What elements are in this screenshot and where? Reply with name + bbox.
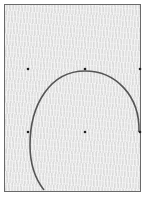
point-p1	[27, 68, 30, 71]
point-p4	[27, 131, 30, 134]
diagram-canvas	[0, 0, 149, 199]
point-p6	[139, 131, 142, 134]
point-p2	[84, 68, 87, 71]
control-points	[27, 68, 142, 134]
arc-curve	[30, 71, 139, 190]
point-p3	[139, 68, 142, 71]
point-p5	[84, 131, 87, 134]
